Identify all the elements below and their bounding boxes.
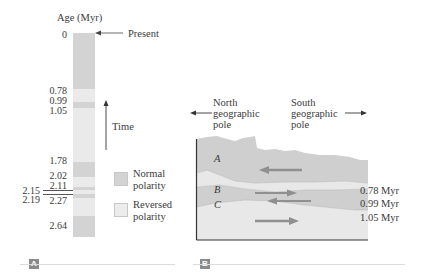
boundary-label-0.78: 0.78 Myr xyxy=(360,185,399,196)
south-label-line2: geographic xyxy=(291,108,338,119)
north-arrow-icon xyxy=(190,110,212,116)
north-label-line2: geographic xyxy=(213,108,260,119)
legend-reversed-line2: polarity xyxy=(133,211,166,222)
layer-label-b: B xyxy=(214,184,220,195)
legend-swatch-reversed xyxy=(114,203,128,217)
layer-label-c: C xyxy=(214,199,221,210)
present-arrow-icon xyxy=(95,28,125,38)
tick-2.64: 2.64 xyxy=(27,221,67,231)
normal-band-1.78-2.02 xyxy=(73,162,95,177)
south-label-line1: South xyxy=(291,97,316,108)
rock-cross-section xyxy=(195,135,370,241)
north-label-line3: pole xyxy=(213,119,231,130)
boundary-label-0.99: 0.99 Myr xyxy=(360,198,399,209)
layer-label-a: A xyxy=(214,153,220,164)
tick-2.27: 2.27 xyxy=(27,196,67,206)
tick-0: 0 xyxy=(27,30,67,40)
panel-a-rule xyxy=(20,264,175,265)
legend-swatch-normal xyxy=(114,172,128,186)
tick-1.05: 1.05 xyxy=(27,106,67,116)
normal-band-0-0.78 xyxy=(73,33,95,89)
time-arrow-icon xyxy=(101,100,111,150)
normal-band-2.11-2.15 xyxy=(73,187,95,190)
north-label-line1: North xyxy=(213,97,238,108)
south-arrow-icon xyxy=(345,110,367,116)
boundary-label-1.05: 1.05 Myr xyxy=(360,212,399,223)
tick-1.78: 1.78 xyxy=(27,156,67,166)
age-axis-title: Age (Myr) xyxy=(57,12,102,23)
normal-band-2.19-2.27 xyxy=(73,194,95,198)
present-label: Present xyxy=(128,28,159,39)
south-label-line3: pole xyxy=(291,119,309,130)
panel-b-rule xyxy=(193,264,405,265)
legend-normal-line2: polarity xyxy=(133,180,166,191)
polarity-column xyxy=(73,33,95,237)
normal-band-0.99-1.05 xyxy=(73,102,95,108)
legend-normal-line1: Normal xyxy=(133,168,165,179)
normal-band-2.64 xyxy=(73,216,95,237)
legend-reversed-line1: Reversed xyxy=(133,199,172,210)
time-label: Time xyxy=(112,121,134,132)
